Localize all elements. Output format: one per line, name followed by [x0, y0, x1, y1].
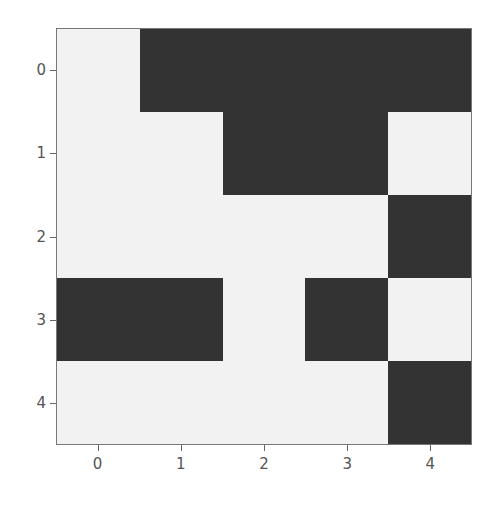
y-tick-label: 1 [30, 145, 46, 161]
heatmap-cell [388, 361, 471, 444]
heatmap-cell [57, 278, 140, 361]
heatmap-plot-area [56, 28, 472, 445]
heatmap-cell [140, 361, 223, 444]
heatmap-cell [57, 29, 140, 112]
heatmap-cell [57, 112, 140, 195]
y-tick [50, 70, 56, 71]
heatmap-cell [223, 361, 306, 444]
y-tick-label: 4 [30, 395, 46, 411]
y-tick [50, 153, 56, 154]
heatmap-cell [223, 29, 306, 112]
x-tick [347, 445, 348, 451]
heatmap-cell [305, 361, 388, 444]
y-tick-label: 2 [30, 229, 46, 245]
y-tick-label: 0 [30, 62, 46, 78]
y-tick [50, 237, 56, 238]
heatmap-cell [140, 112, 223, 195]
x-tick-label: 2 [254, 456, 274, 472]
heatmap-cell [140, 29, 223, 112]
x-tick-label: 0 [88, 456, 108, 472]
x-tick-label: 3 [337, 456, 357, 472]
x-tick [98, 445, 99, 451]
heatmap-cell [223, 278, 306, 361]
y-tick [50, 403, 56, 404]
heatmap-cell [140, 278, 223, 361]
y-tick-label: 3 [30, 312, 46, 328]
heatmap-cell [305, 278, 388, 361]
heatmap-cell [305, 112, 388, 195]
x-tick-label: 4 [420, 456, 440, 472]
heatmap-cell [388, 112, 471, 195]
x-tick [430, 445, 431, 451]
heatmap-cell [57, 361, 140, 444]
heatmap-cell [388, 29, 471, 112]
heatmap-cell [223, 195, 306, 278]
x-tick-label: 1 [171, 456, 191, 472]
x-tick [264, 445, 265, 451]
heatmap-cell [305, 195, 388, 278]
heatmap-cell [388, 195, 471, 278]
heatmap-cell [223, 112, 306, 195]
heatmap-cell [388, 278, 471, 361]
heatmap-cell [305, 29, 388, 112]
heatmap-cell [140, 195, 223, 278]
x-tick [181, 445, 182, 451]
heatmap-cell [57, 195, 140, 278]
y-tick [50, 320, 56, 321]
